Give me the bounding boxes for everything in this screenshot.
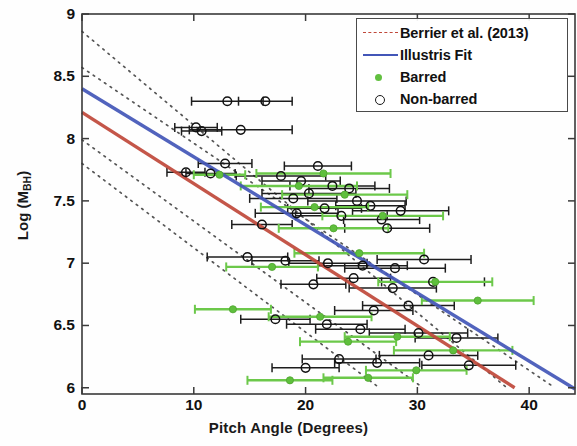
dashed-line-icon xyxy=(362,25,400,41)
x-tick-label: 40 xyxy=(521,396,538,414)
legend-label-berrier: Berrier et al. (2013) xyxy=(400,25,528,41)
x-tick-label: 30 xyxy=(409,396,426,414)
point-barred xyxy=(394,333,401,340)
y-tick-label: 6.5 xyxy=(20,316,75,334)
legend-box: Berrier et al. (2013) Illustris Fit Barr… xyxy=(356,18,568,112)
legend-item-berrier: Berrier et al. (2013) xyxy=(357,22,567,44)
y-tick-label: 8 xyxy=(20,130,75,148)
point-barred xyxy=(330,225,337,232)
fit-line-illustris xyxy=(82,89,575,389)
y-tick-label: 6 xyxy=(20,379,75,397)
point-barred xyxy=(286,377,293,384)
legend-label-barred: Barred xyxy=(400,69,446,85)
point-barred xyxy=(341,191,348,198)
point-barred xyxy=(432,278,439,285)
x-tick-label: 0 xyxy=(78,396,87,414)
y-tick-label: 9 xyxy=(20,5,75,23)
figure-canvas: Pitch Angle (Degrees) Log (MBH) 01020304… xyxy=(0,0,577,446)
point-barred xyxy=(379,212,386,219)
x-axis-title: Pitch Angle (Degrees) xyxy=(0,419,577,436)
y-tick-label: 8.5 xyxy=(20,67,75,85)
point-barred xyxy=(229,306,236,313)
open-circle-icon xyxy=(362,91,400,107)
solid-line-icon xyxy=(362,47,400,63)
legend-item-barred: Barred xyxy=(357,66,567,88)
fit-lines xyxy=(82,89,575,389)
point-barred xyxy=(450,347,457,354)
point-barred xyxy=(320,170,327,177)
band-line-3 xyxy=(82,164,379,388)
legend-item-nonbarred: Non-barred xyxy=(357,88,567,110)
point-barred xyxy=(413,367,420,374)
fit-line-berrier xyxy=(82,112,515,387)
point-barred xyxy=(474,297,481,304)
point-barred xyxy=(356,250,363,257)
error-bar xyxy=(272,363,339,372)
point-barred xyxy=(268,263,275,270)
x-tick-label: 20 xyxy=(297,396,314,414)
point-barred xyxy=(365,374,372,381)
legend-label-nonbarred: Non-barred xyxy=(400,91,477,107)
filled-dot-icon xyxy=(362,69,400,85)
point-barred xyxy=(311,204,318,211)
error-bar xyxy=(284,162,351,171)
y-tick-label: 7.5 xyxy=(20,192,75,210)
legend-label-illustris: Illustris Fit xyxy=(400,47,472,63)
y-tick-label: 7 xyxy=(20,254,75,272)
y-axis-title-close: ) xyxy=(14,171,31,176)
error-bar xyxy=(239,97,293,106)
point-barred xyxy=(216,171,223,178)
point-barred xyxy=(317,313,324,320)
error-bar xyxy=(422,361,516,370)
point-barred xyxy=(344,338,351,345)
x-tick-label: 10 xyxy=(185,396,202,414)
legend-item-illustris: Illustris Fit xyxy=(357,44,567,66)
error-bar xyxy=(281,280,346,289)
y-axis-title-subscript: BH xyxy=(21,176,33,191)
point-barred xyxy=(295,182,302,189)
